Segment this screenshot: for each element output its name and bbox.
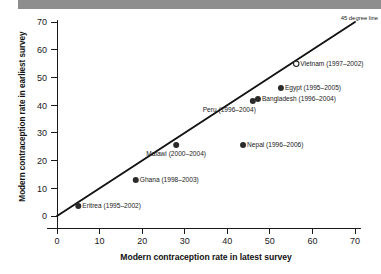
y-tick-label: 0 [42,211,47,221]
data-point-marker-filled [75,203,81,209]
data-point-label: Malawi (2000–2004) [146,150,206,158]
data-point-marker-filled [240,142,246,148]
y-tick-label: 70 [37,17,47,27]
scatter-chart-figure: Modern contraception rate in earliest su… [0,0,381,274]
x-tick-label: 70 [350,236,360,246]
data-point[interactable]: Malawi (2000–2004) [146,142,206,158]
y-tick-label: 50 [37,73,47,83]
data-point-marker-open [294,61,299,66]
data-point-label: Peru (1996–2004) [203,106,256,114]
data-point-label: Nepal (1996–2006) [247,141,303,149]
x-tick-label: 50 [265,236,275,246]
reference-line-label: 45 degree line [341,15,379,21]
y-tick-label: 20 [37,156,47,166]
forty-five-degree-line [57,22,355,216]
x-tick-label: 0 [54,236,59,246]
data-point-label: Egypt (1995–2005) [285,84,341,92]
x-tick-label: 10 [95,236,105,246]
y-axis-ticks: 010203040506070 [37,17,57,221]
x-tick-label: 20 [137,236,147,246]
x-axis-ticks: 010203040506070 [54,228,360,246]
data-point-marker-filled [255,96,261,102]
y-tick-label: 40 [37,101,47,111]
x-tick-label: 40 [222,236,232,246]
data-point-label: Eritrea (1995–2002) [82,202,141,210]
data-point-marker-filled [250,98,256,104]
data-point[interactable]: Egypt (1995–2005) [278,84,341,92]
data-point[interactable]: Bangladesh (1996–2004) [255,95,336,103]
data-point[interactable]: Peru (1996–2004) [203,98,256,114]
data-point[interactable]: Vietnam (1997–2002) [294,60,364,68]
data-point[interactable]: Nepal (1996–2006) [240,141,303,149]
data-point-label: Ghana (1998–2003) [140,176,199,184]
plot-area: 010203040506070 010203040506070 45 degre… [0,0,381,274]
data-point[interactable]: Eritrea (1995–2002) [75,202,141,210]
data-points-group: Eritrea (1995–2002)Ghana (1998–2003)Mala… [75,60,363,210]
y-tick-label: 30 [37,128,47,138]
data-point-label: Vietnam (1997–2002) [300,60,363,68]
x-tick-label: 60 [307,236,317,246]
data-point-marker-filled [173,142,179,148]
chart-annotations: 45 degree line [341,15,379,21]
y-tick-label: 10 [37,184,47,194]
data-point-marker-filled [278,85,284,91]
data-point-label: Bangladesh (1996–2004) [262,95,336,103]
x-tick-label: 30 [180,236,190,246]
data-point-marker-filled [133,177,139,183]
y-tick-label: 60 [37,45,47,55]
data-point[interactable]: Ghana (1998–2003) [133,176,199,184]
